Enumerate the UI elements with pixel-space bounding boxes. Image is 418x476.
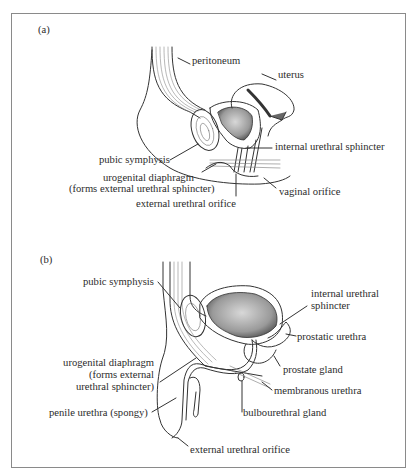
- label-uterus: uterus: [278, 69, 304, 80]
- label-penile-urethra: penile urethra (spongy): [49, 407, 148, 418]
- label-urogenital-diaphragm-b-2: (forms external: [52, 369, 154, 380]
- label-internal-urethral-sphincter-a: internal urethral sphincter: [275, 141, 384, 152]
- label-urogenital-diaphragm-a-1: urogenital diaphragm: [103, 172, 194, 183]
- label-external-urethral-orifice-b: external urethral orifice: [190, 444, 290, 455]
- label-peritoneum: peritoneum: [192, 55, 240, 66]
- label-urogenital-diaphragm-a-2: (forms external urethral sphincter): [69, 183, 215, 194]
- label-bulbourethral-gland: bulbourethral gland: [243, 407, 326, 418]
- panel-b-tag: (b): [40, 254, 52, 265]
- label-external-urethral-orifice-a: external urethral orifice: [136, 198, 236, 209]
- label-pubic-symphysis-a: pubic symphysis: [99, 154, 170, 165]
- label-urogenital-diaphragm-b-3: urethral sphincter): [52, 381, 154, 392]
- panel-a-tag: (a): [38, 24, 50, 35]
- label-vaginal-orifice: vaginal orifice: [279, 186, 340, 197]
- label-urogenital-diaphragm-b-1: urogenital diaphragm: [52, 357, 154, 368]
- label-pubic-symphysis-b: pubic symphysis: [83, 276, 154, 287]
- label-internal-urethral-sphincter-b-1: internal urethral: [311, 288, 379, 299]
- panel-b-drawing: [152, 262, 307, 446]
- label-membranous-urethra: membranous urethra: [274, 385, 361, 396]
- anatomy-illustration: [0, 0, 418, 476]
- label-prostatic-urethra: prostatic urethra: [297, 331, 366, 342]
- label-internal-urethral-sphincter-b-2: sphincter: [311, 300, 350, 311]
- label-prostate-gland: prostate gland: [283, 364, 343, 375]
